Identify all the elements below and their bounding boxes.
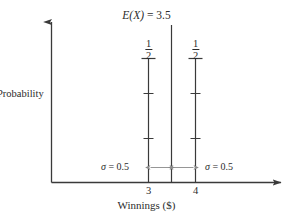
- expected-value-number: = 3.5: [144, 9, 171, 21]
- probability-label-4-denominator: 2: [192, 50, 199, 61]
- x-axis-title: Winnings ($): [118, 200, 176, 211]
- probability-label-4-numerator: 1: [192, 38, 199, 50]
- x-tick-label-4: 4: [193, 186, 198, 197]
- figure-canvas: [0, 0, 293, 214]
- y-axis-title: Probability: [0, 89, 44, 100]
- expected-value-text: E(X): [122, 9, 144, 21]
- probability-label-3-numerator: 1: [145, 38, 152, 50]
- sigma-label-left: σ = 0.5: [101, 162, 129, 172]
- probability-label-4: 1 2: [192, 38, 199, 61]
- sigma-value-left: = 0.5: [106, 161, 129, 172]
- probability-label-3-denominator: 2: [145, 50, 152, 61]
- x-tick-label-3: 3: [146, 186, 151, 197]
- expected-value-label: E(X) = 3.5: [122, 10, 170, 22]
- probability-label-3: 1 2: [145, 38, 152, 61]
- sigma-value-right: = 0.5: [210, 161, 233, 172]
- probability-distribution-figure: E(X) = 3.5 1 2 1 2 σ = 0.5 σ = 0.5 3 4 W…: [0, 0, 293, 214]
- sigma-label-right: σ = 0.5: [205, 162, 233, 172]
